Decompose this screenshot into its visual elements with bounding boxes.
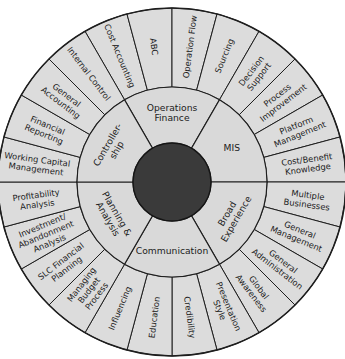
competency-wheel: OperationsFinanceCost AccountingABCOpera…: [0, 0, 345, 359]
center-hub: [133, 143, 211, 221]
category-label-mis: MIS: [224, 142, 241, 153]
category-label-communication: Communication: [136, 245, 209, 256]
